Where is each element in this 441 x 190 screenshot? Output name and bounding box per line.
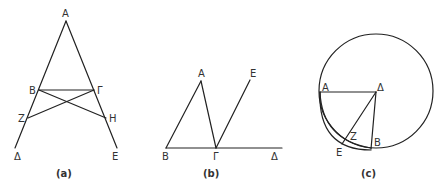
line-delta-e [342,92,376,144]
label-z: Z [18,113,25,124]
caption-a: (a) [56,168,72,179]
figure-a: A B Γ Z H Δ E (a) [14,8,118,179]
label-a: A [62,8,69,19]
label-a: A [198,68,205,79]
line-a-delta [15,21,66,148]
label-e: E [336,147,342,158]
label-gamma: Γ [97,85,103,96]
label-e: E [250,68,256,79]
circle [319,34,433,148]
caption-b: (b) [203,168,219,179]
line-b-a [166,81,201,148]
figure-b: A E B Γ Δ (b) [162,68,282,179]
label-e: E [112,151,118,162]
caption-c: (c) [361,168,376,179]
figure-c: A Δ Z B E (c) [319,34,433,179]
label-a: A [322,82,329,93]
label-delta: Δ [14,151,21,162]
line-a-e [66,21,117,148]
label-h: H [109,113,117,124]
label-z: Z [350,131,357,142]
line-gamma-e [216,80,250,148]
label-b: B [29,85,36,96]
label-b: B [374,137,381,148]
line-gamma-z [28,90,94,118]
figure-canvas: A B Γ Z H Δ E (a) A E B Γ Δ (b) A Δ Z B … [0,0,441,190]
label-gamma: Γ [213,151,219,162]
label-delta: Δ [377,82,384,93]
line-a-gamma [201,81,216,148]
label-b: B [162,151,169,162]
label-delta: Δ [271,151,278,162]
